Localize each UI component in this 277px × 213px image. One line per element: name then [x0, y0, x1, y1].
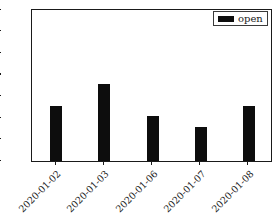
x-axis: 2020-01-022020-01-032020-01-062020-01-07… [0, 0, 277, 213]
x-axis-tick-label: 2020-01-02 [0, 168, 63, 213]
x-axis-tick-mark [247, 161, 248, 165]
x-axis-tick-mark [199, 161, 200, 165]
legend-label-open: open [238, 13, 263, 24]
chart-legend: open [213, 11, 268, 26]
legend-swatch-open [218, 16, 234, 22]
x-axis-tick-mark [103, 161, 104, 165]
x-axis-tick-mark [151, 161, 152, 165]
x-axis-tick-mark [55, 161, 56, 165]
bar-chart-figure: 3.663.683.703.723.743.763.783.80 2020-01… [0, 0, 277, 213]
